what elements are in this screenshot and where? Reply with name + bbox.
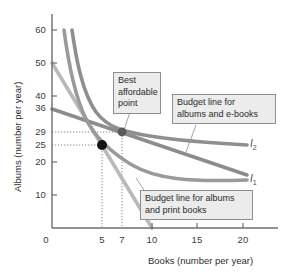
curve-label-i1: I1 xyxy=(250,173,257,186)
chart-figure: Albums (number per year) Books (number p… xyxy=(0,0,282,273)
x-tick-label-10: 10 xyxy=(144,234,160,245)
y-tick-label-40: 40 xyxy=(22,90,46,101)
x-axis-title: Books (number per year) xyxy=(148,255,253,266)
y-tick-label-29: 29 xyxy=(22,126,46,137)
y-tick-label-10: 10 xyxy=(22,189,46,200)
x-tick-label-20: 20 xyxy=(235,234,251,245)
y-tick-label-36: 36 xyxy=(22,102,46,113)
y-tick-label-20: 20 xyxy=(22,156,46,167)
x-tick-label-0: 0 xyxy=(38,234,54,245)
curve-label-i2-sub: 2 xyxy=(253,144,257,151)
leader-ebooks xyxy=(186,125,196,152)
x-tick-label-15: 15 xyxy=(189,234,205,245)
y-tick-label-50: 50 xyxy=(22,57,46,68)
y-tick-label-60: 60 xyxy=(22,24,46,35)
best-affordable-point-callout: Best affordable point xyxy=(113,72,161,114)
point-best-affordable xyxy=(118,128,127,137)
curve-label-i1-sub: 1 xyxy=(253,179,257,186)
x-tick-label-5: 5 xyxy=(94,234,110,245)
x-axis-ticks xyxy=(152,223,243,228)
x-tick-label-7: 7 xyxy=(114,234,130,245)
ebooks-budget-line-callout: Budget line for albums and e-books xyxy=(172,94,276,124)
y-tick-label-25: 25 xyxy=(22,139,46,150)
point-print-books-optimum xyxy=(97,140,107,150)
print-books-budget-line-callout: Budget line for albums and print books xyxy=(140,190,253,220)
curve-label-i2: I2 xyxy=(250,138,257,151)
y-axis-ticks xyxy=(52,30,57,195)
guide-lines xyxy=(52,132,122,228)
leader-best-point xyxy=(124,112,130,130)
